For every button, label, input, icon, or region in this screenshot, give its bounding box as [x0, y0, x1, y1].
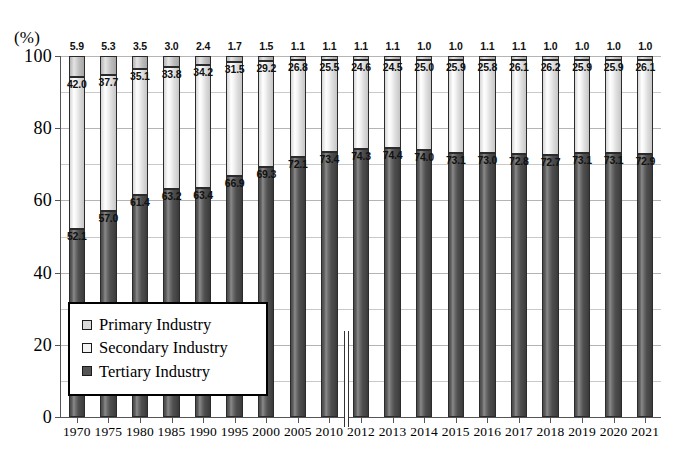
x-axis-tick-label: 2005: [284, 424, 312, 440]
x-axis-tick-label: 2014: [410, 424, 438, 440]
value-label-secondary: 26.2: [541, 61, 561, 73]
bar-segment-tertiary: [574, 153, 590, 417]
value-label-primary: 1.1: [386, 40, 400, 52]
value-label-tertiary: 72.8: [509, 155, 529, 167]
x-axis-tick: [235, 417, 236, 423]
value-label-tertiary: 74.0: [414, 151, 434, 163]
x-axis-tick: [519, 417, 520, 423]
value-label-tertiary: 73.1: [604, 154, 624, 166]
bar-column[interactable]: [290, 56, 306, 417]
bar-segment-tertiary: [384, 148, 400, 417]
value-label-primary: 1.7: [228, 40, 242, 52]
legend-item-primary[interactable]: Primary Industry: [82, 316, 256, 333]
bar-segment-primary: [637, 56, 653, 60]
bar-segment-tertiary: [511, 154, 527, 417]
x-axis-tick-label: 1975: [94, 424, 122, 440]
bar-column[interactable]: [384, 56, 400, 417]
x-axis-tick-label: 2020: [600, 424, 628, 440]
value-label-primary: 1.1: [354, 40, 368, 52]
value-label-primary: 1.0: [449, 40, 463, 52]
bar-segment-secondary: [69, 77, 85, 229]
x-axis-tick: [108, 417, 109, 423]
value-label-tertiary: 72.9: [635, 155, 655, 167]
x-axis-tick: [550, 417, 551, 423]
bar-column[interactable]: [321, 56, 337, 417]
y-axis-unit-label: (%): [14, 28, 40, 48]
x-axis-tick-label: 1990: [189, 424, 217, 440]
bar-segment-tertiary: [416, 150, 432, 417]
y-axis-tick-label: 80: [33, 119, 52, 137]
value-label-secondary: 25.8: [477, 61, 497, 73]
x-axis-tick-label: 2018: [537, 424, 565, 440]
value-label-tertiary: 73.0: [477, 154, 497, 166]
value-label-tertiary: 73.4: [320, 153, 340, 165]
bar-column[interactable]: [574, 56, 590, 417]
bar-segment-secondary: [132, 69, 148, 196]
bar-segment-primary: [290, 56, 306, 60]
bar-column[interactable]: [416, 56, 432, 417]
bar-segment-primary: [163, 56, 179, 67]
bar-segment-primary: [195, 56, 211, 65]
x-axis-tick: [361, 417, 362, 423]
value-label-secondary: 42.0: [67, 78, 87, 90]
value-label-primary: 1.0: [543, 40, 557, 52]
bar-column[interactable]: [511, 56, 527, 417]
x-axis-tick: [424, 417, 425, 423]
value-label-secondary: 37.7: [99, 76, 119, 88]
legend-item-secondary[interactable]: Secondary Industry: [82, 339, 256, 356]
y-axis-tick-label: 100: [24, 47, 52, 65]
legend-label-primary: Primary Industry: [99, 316, 211, 333]
x-axis-tick-label: 2013: [379, 424, 407, 440]
bar-column[interactable]: [479, 56, 495, 417]
bar-segment-primary: [100, 56, 116, 75]
primary-swatch-icon: [82, 320, 92, 330]
x-axis-tick: [582, 417, 583, 423]
bar-segment-tertiary: [448, 153, 464, 417]
bar-segment-secondary: [479, 60, 495, 153]
x-axis-tick: [298, 417, 299, 423]
value-label-tertiary: 63.4: [193, 189, 213, 201]
secondary-swatch-icon: [82, 343, 92, 353]
value-label-primary: 5.9: [70, 40, 84, 52]
x-axis-tick-label: 1985: [158, 424, 186, 440]
y-axis-tick-label: 60: [33, 191, 52, 209]
value-label-secondary: 29.2: [256, 62, 276, 74]
value-label-tertiary: 72.1: [288, 158, 308, 170]
tertiary-swatch-icon: [82, 366, 92, 376]
x-axis-tick-label: 2012: [347, 424, 375, 440]
bar-column[interactable]: [605, 56, 621, 417]
value-label-primary: 1.0: [417, 40, 431, 52]
value-label-secondary: 26.1: [509, 61, 529, 73]
value-label-primary: 1.0: [607, 40, 621, 52]
x-axis-tick: [487, 417, 488, 423]
value-label-secondary: 31.5: [225, 63, 245, 75]
series-break-divider: [344, 331, 349, 427]
value-label-secondary: 25.9: [572, 61, 592, 73]
x-axis-tick: [645, 417, 646, 423]
chart-legend: Primary Industry Secondary Industry Tert…: [68, 302, 268, 396]
x-axis-tick-label: 1995: [221, 424, 249, 440]
bar-segment-tertiary: [637, 154, 653, 417]
bar-segment-primary: [479, 56, 495, 60]
bar-column[interactable]: [353, 56, 369, 417]
x-axis-tick: [266, 417, 267, 423]
bar-segment-secondary: [321, 60, 337, 152]
bar-column[interactable]: [448, 56, 464, 417]
bar-segment-primary: [132, 56, 148, 69]
legend-item-tertiary[interactable]: Tertiary Industry: [82, 363, 256, 380]
bar-segment-primary: [353, 56, 369, 60]
value-label-tertiary: 69.3: [256, 168, 276, 180]
value-label-secondary: 24.6: [351, 61, 371, 73]
x-axis-tick: [140, 417, 141, 423]
value-label-tertiary: 57.0: [99, 212, 119, 224]
bar-column[interactable]: [542, 56, 558, 417]
value-label-secondary: 25.9: [604, 61, 624, 73]
value-label-primary: 1.0: [575, 40, 589, 52]
x-axis-tick: [329, 417, 330, 423]
x-axis-tick: [456, 417, 457, 423]
value-label-primary: 1.5: [259, 40, 273, 52]
x-axis-tick: [393, 417, 394, 423]
bar-segment-tertiary: [290, 157, 306, 417]
bar-column[interactable]: [637, 56, 653, 417]
value-label-tertiary: 72.7: [541, 156, 561, 168]
